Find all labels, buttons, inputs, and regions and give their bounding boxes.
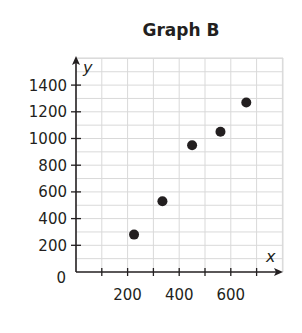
data-point <box>241 97 251 107</box>
data-point <box>187 140 197 150</box>
ticks <box>71 85 257 276</box>
y-tick-label: 0 <box>56 269 66 287</box>
data-point <box>129 230 139 240</box>
data-point <box>215 127 225 137</box>
data-point <box>157 196 167 206</box>
x-tick-label: 600 <box>216 286 245 304</box>
y-axis-label: y <box>82 58 93 77</box>
y-tick-label: 1400 <box>29 77 67 95</box>
y-tick-label: 200 <box>38 237 67 255</box>
y-tick-label: 1000 <box>29 130 67 148</box>
y-tick-label: 800 <box>38 157 67 175</box>
axes <box>72 56 283 276</box>
x-tick-label: 400 <box>165 286 194 304</box>
grid <box>76 58 283 272</box>
scatter-chart: Graph B 20040060002004006008001000120014… <box>0 0 302 333</box>
chart-title: Graph B <box>143 20 220 40</box>
y-tick-label: 400 <box>38 210 67 228</box>
tick-labels: 2004006000200400600800100012001400 <box>29 77 245 304</box>
y-tick-label: 600 <box>38 183 67 201</box>
x-tick-label: 200 <box>113 286 142 304</box>
y-tick-label: 1200 <box>29 103 67 121</box>
x-axis-label: x <box>265 247 276 266</box>
